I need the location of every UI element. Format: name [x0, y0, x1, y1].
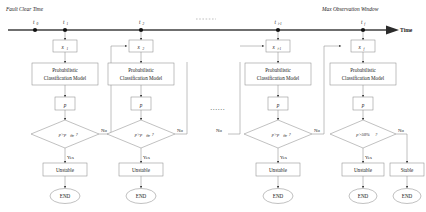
probability-label: p	[139, 102, 143, 108]
tick-label-sub: 2	[142, 22, 144, 26]
model-label-line1: Probabilistic	[128, 67, 154, 73]
end-label: END	[136, 193, 147, 199]
column-2: x 2 Probabilistic Classification Model p…	[107, 32, 187, 204]
ellipsis-between-stages: ......	[211, 105, 226, 111]
decision-label-sub: thr	[146, 134, 151, 138]
input-var-sub: i-1	[277, 47, 281, 51]
tick-label: t	[139, 19, 141, 25]
no-branch-feedback-path	[312, 46, 341, 134]
yes-branch-label: Yes	[365, 155, 372, 160]
input-var-box	[129, 40, 153, 52]
model-label-line2: Classification Model	[257, 75, 300, 81]
probability-label: p	[276, 102, 280, 108]
max-observation-window-label: Max Observation Window	[321, 6, 379, 12]
tick-marker	[361, 28, 365, 32]
tick-label-sub: i-1	[278, 22, 282, 26]
tick-marker	[63, 28, 67, 32]
column-3: x i-1 Probabilistic Classification Model…	[240, 32, 341, 204]
decision-label: p>p	[134, 132, 143, 137]
yes-branch-label: Yes	[67, 155, 74, 160]
fault-clear-time-label: Fault Clear Time	[5, 6, 44, 12]
tick-label: t	[361, 19, 363, 25]
decision-label: p>50%	[355, 132, 370, 137]
end-label: END	[60, 193, 71, 199]
probability-label: p	[63, 102, 67, 108]
time-axis-label: Time	[400, 27, 413, 33]
input-var-sub: 1	[66, 47, 68, 51]
time-axis-arrowhead	[386, 25, 399, 34]
tick-marker	[139, 28, 143, 32]
result-alt-label: Stable	[401, 167, 414, 173]
mid-feedback-path	[228, 62, 240, 134]
decision-label: p>p	[58, 132, 67, 137]
no-branch-label: No	[177, 128, 183, 133]
model-label-line2: Classification Model	[342, 75, 385, 81]
figure-canvas: Fault Clear Time Max Observation Window …	[0, 0, 426, 212]
decision-label-sub: thr	[70, 134, 75, 138]
no-branch-label: No	[398, 128, 404, 133]
decision-label-sub: thr	[283, 134, 288, 138]
tick-label-sub: f	[364, 22, 366, 26]
result-label: Unstable	[354, 167, 373, 173]
input-var-sub: 2	[142, 47, 144, 51]
tick-label: t	[275, 19, 277, 25]
tick-marker	[276, 28, 280, 32]
model-label-line1: Probabilistic	[52, 67, 78, 73]
end-label: END	[273, 193, 284, 199]
mid-no-label: No	[216, 128, 222, 133]
tick-label: t	[63, 19, 65, 25]
yes-branch-label: Yes	[280, 155, 287, 160]
decision-label: p>p	[271, 132, 280, 137]
tick-label-sub: 1	[66, 22, 68, 26]
result-label: Unstable	[132, 167, 151, 173]
no-branch-label: No	[314, 128, 320, 133]
column-1: x 1 Probabilistic Classification Model p…	[31, 32, 127, 204]
no-branch-feedback-path	[99, 46, 127, 134]
flowchart-diagram: Fault Clear Time Max Observation Window …	[0, 0, 426, 212]
no-branch-feedback-path	[175, 62, 187, 134]
probability-label: p	[361, 102, 365, 108]
tick-label-sub: 0	[36, 22, 38, 26]
model-label-line2: Classification Model	[120, 75, 163, 81]
model-label-line1: Probabilistic	[350, 67, 376, 73]
no-branch-label: No	[101, 128, 107, 133]
model-label-line1: Probabilistic	[265, 67, 291, 73]
end-label: END	[358, 193, 369, 199]
result-label: Unstable	[56, 167, 75, 173]
tick-marker	[33, 28, 37, 32]
tick-label: t	[33, 19, 35, 25]
column-4: x f Probabilistic Classification Model p…	[330, 32, 424, 204]
model-label-line2: Classification Model	[44, 75, 87, 81]
yes-branch-label: Yes	[143, 155, 150, 160]
input-var-box	[53, 40, 77, 52]
end-alt-label: END	[402, 193, 413, 199]
result-label: Unstable	[269, 167, 288, 173]
no-branch-to-stable-path	[396, 134, 407, 163]
